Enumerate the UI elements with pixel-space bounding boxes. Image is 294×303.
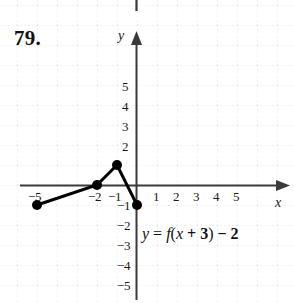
coordinate-plot — [0, 0, 294, 303]
x-axis-label: x — [275, 196, 281, 210]
equation-equals: = — [153, 225, 162, 242]
y-tick-3: 3 — [122, 120, 129, 133]
x-tick-1: 1 — [153, 190, 160, 203]
data-point-marker — [132, 200, 142, 210]
x-tick-4: 4 — [213, 190, 220, 203]
x-tick-3: 3 — [193, 190, 200, 203]
equation-caption: y = f(x + 3) − 2 — [142, 226, 239, 242]
y-tick-5: 5 — [122, 80, 129, 93]
x-tick-minus-2: −2 — [88, 190, 101, 203]
equation-lhs: y — [142, 225, 149, 242]
y-tick-minus-3: −3 — [117, 239, 130, 252]
y-axis — [131, 31, 142, 300]
y-axis-label: y — [118, 29, 124, 43]
equation-minus: − — [217, 225, 226, 242]
equation-shift: 3 — [200, 225, 208, 242]
equation-plus: + — [187, 225, 196, 242]
equation-arg-var: x — [176, 225, 183, 242]
x-tick-5: 5 — [233, 190, 240, 203]
y-tick-minus-5: −5 — [117, 279, 130, 292]
equation-close-paren: ) — [208, 225, 213, 242]
data-point-marker — [112, 160, 122, 170]
x-tick-minus-5: −5 — [28, 190, 41, 203]
y-tick-minus-2: −2 — [117, 219, 130, 232]
y-tick-minus-4: −4 — [117, 259, 130, 272]
x-tick-2: 2 — [173, 190, 180, 203]
equation-offset: 2 — [231, 225, 239, 242]
y-tick-4: 4 — [122, 100, 129, 113]
y-tick-2: 2 — [122, 140, 129, 153]
x-tick-minus-1: −1 — [108, 190, 121, 203]
figure-page: 79. y x 5 4 3 2 −1 −2 −3 −4 −5 −5 −2 — [0, 0, 294, 303]
